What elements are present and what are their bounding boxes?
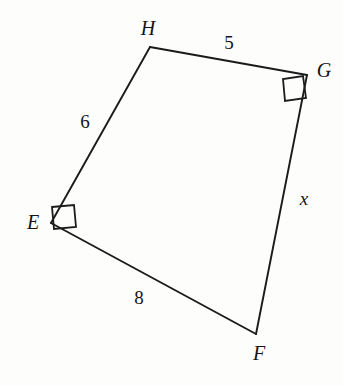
vertex-label-H: H (140, 17, 157, 39)
geometry-canvas: E H G F 6 5 x 8 (0, 0, 343, 385)
edge-EH (51, 47, 150, 223)
vertex-label-G: G (317, 59, 332, 81)
vertex-label-F: F (252, 342, 266, 364)
side-length-GF: x (299, 188, 309, 209)
side-length-FE: 8 (134, 287, 144, 308)
side-length-HG: 5 (224, 32, 234, 53)
vertex-label-E: E (26, 211, 39, 233)
edge-FE (51, 223, 256, 334)
geometry-figure: E H G F 6 5 x 8 (0, 0, 343, 385)
side-length-EH: 6 (80, 111, 90, 132)
